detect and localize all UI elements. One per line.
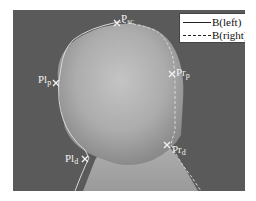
legend-label-left: B(left) [212,16,241,28]
landmark-pl-d: Pld [65,153,78,167]
legend-item-left: B(left) [183,16,241,28]
legend-item-right: B(right) [183,29,245,41]
solid-line-icon [183,22,211,23]
landmark-pr-p: Prp [176,67,190,81]
legend-label-right: B(right) [212,29,245,41]
dashed-line-icon [183,35,211,36]
landmark-pl-p: Plp [38,74,51,88]
landmark-pr-d: Prd [172,144,186,158]
legend: B(left) B(right) [179,13,245,43]
thermal-image: Psc Plp Prp Pld Prd B(left) B(right) [13,10,245,191]
landmark-p-sc: Psc [121,13,134,27]
